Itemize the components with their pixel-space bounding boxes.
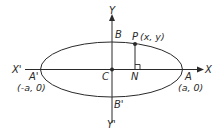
- label-a-prime-coords: (-a, 0): [17, 82, 46, 93]
- x-axis-arrow-icon: [197, 67, 204, 73]
- point-p-dot: [133, 42, 137, 46]
- label-n: N: [131, 71, 139, 82]
- label-y: Y: [109, 5, 116, 16]
- right-angle-mark: [135, 65, 140, 70]
- center-c-dot: [110, 68, 114, 72]
- label-y-prime: Y': [107, 119, 116, 130]
- label-b: B: [115, 29, 122, 40]
- label-a-prime: A': [28, 71, 39, 82]
- label-p-coords: (x, y): [140, 31, 165, 42]
- label-p: P: [132, 31, 139, 42]
- label-a: A: [184, 71, 192, 82]
- label-c: C: [102, 71, 109, 82]
- label-x-prime: X': [11, 64, 22, 75]
- ellipse-diagram: Y B P (x, y) X' A' (-a, 0) C N A (a, 0) …: [0, 0, 217, 133]
- label-b-prime: B': [114, 99, 124, 110]
- label-x: X: [204, 64, 213, 75]
- label-a-coords: (a, 0): [178, 82, 203, 93]
